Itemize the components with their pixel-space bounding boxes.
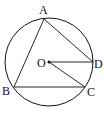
label-d: D [94, 57, 103, 71]
label-c: C [87, 85, 95, 99]
center-point-o [48, 61, 51, 64]
geometry-diagram: A B C D O [0, 0, 104, 124]
segment-oc [49, 62, 85, 87]
segment-ad [44, 19, 93, 62]
segment-ab [14, 19, 44, 87]
label-b: B [2, 84, 10, 98]
label-a: A [39, 3, 48, 17]
label-o: O [37, 56, 46, 70]
